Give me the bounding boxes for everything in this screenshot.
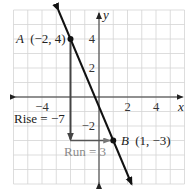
- point-a-label: A (−2, 4): [15, 31, 66, 46]
- rise-label: Rise = −7: [14, 111, 65, 126]
- point-b: [110, 138, 116, 144]
- point-b-label: B (1, −3): [121, 133, 171, 148]
- coordinate-plane: −424 42−2 x y A (−2, 4) B (1, −3) Rise =…: [0, 0, 192, 196]
- point-a-coords: (−2, 4): [30, 31, 66, 46]
- point-a-name: A: [15, 31, 24, 46]
- y-tick-label: 4: [89, 32, 96, 46]
- run-label: Run = 3: [64, 144, 106, 159]
- x-tick-label: 4: [153, 100, 160, 114]
- point-b-coords: (1, −3): [135, 133, 171, 148]
- x-axis-label: x: [177, 99, 184, 114]
- y-axis-label: y: [101, 7, 109, 22]
- point-b-name: B: [121, 133, 129, 148]
- x-tick-label: 2: [124, 100, 130, 114]
- point-a: [68, 36, 74, 42]
- y-tick-label: 2: [89, 61, 95, 75]
- y-tick-label: −2: [82, 119, 95, 133]
